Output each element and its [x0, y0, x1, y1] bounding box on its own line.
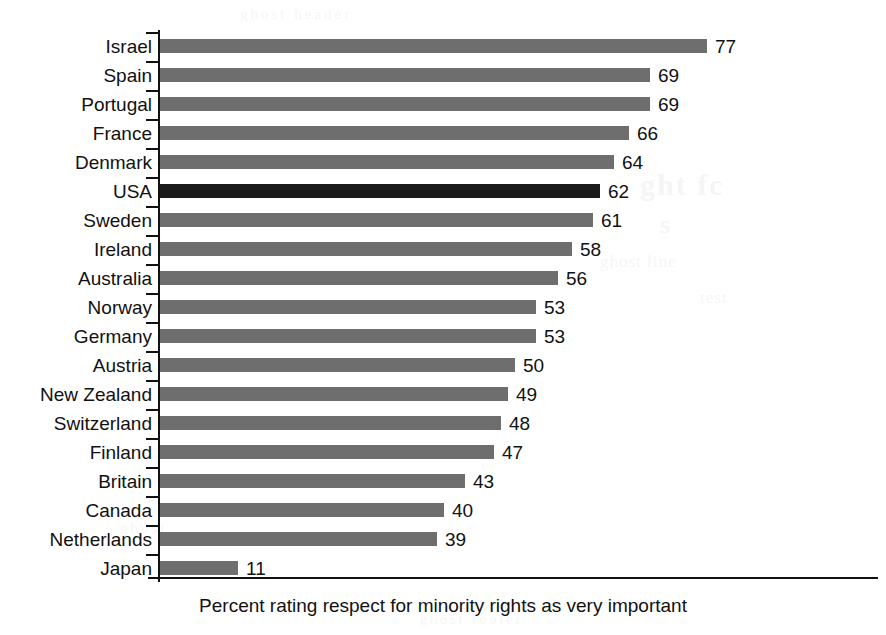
- bar: [160, 97, 650, 111]
- bar: [160, 68, 650, 82]
- bar: [160, 271, 558, 285]
- category-label: Canada: [0, 496, 152, 525]
- bar: [160, 416, 501, 430]
- category-label: Israel: [0, 32, 152, 61]
- category-label: USA: [0, 177, 152, 206]
- bar-row: New Zealand49: [0, 380, 886, 409]
- bar: [160, 561, 238, 575]
- bar-value-label: 49: [516, 380, 537, 409]
- bar-value-label: 56: [566, 264, 587, 293]
- bar-row: Portugal69: [0, 90, 886, 119]
- bar-row: Israel77: [0, 32, 886, 61]
- bar: [160, 358, 515, 372]
- bar-value-label: 50: [523, 351, 544, 380]
- bar: [160, 213, 593, 227]
- category-label: Spain: [0, 61, 152, 90]
- bar: [160, 387, 508, 401]
- bar: [160, 474, 465, 488]
- bar-value-label: 62: [608, 177, 629, 206]
- category-label: Australia: [0, 264, 152, 293]
- bar: [160, 445, 494, 459]
- bar-value-label: 66: [637, 119, 658, 148]
- bar-value-label: 53: [544, 322, 565, 351]
- bar-row: Netherlands39: [0, 525, 886, 554]
- bar: [160, 242, 572, 256]
- plot-area: Israel77Spain69Portugal69France66Denmark…: [0, 0, 886, 590]
- bar: [160, 126, 629, 140]
- bar-row: France66: [0, 119, 886, 148]
- bar-row: Norway53: [0, 293, 886, 322]
- bar-value-label: 77: [715, 32, 736, 61]
- category-label: Austria: [0, 351, 152, 380]
- bar-row: Switzerland48: [0, 409, 886, 438]
- bar-value-label: 69: [658, 61, 679, 90]
- category-label: Denmark: [0, 148, 152, 177]
- bar-row: Denmark64: [0, 148, 886, 177]
- bar-row: USA62: [0, 177, 886, 206]
- category-label: Ireland: [0, 235, 152, 264]
- bar-value-label: 58: [580, 235, 601, 264]
- x-axis-caption: Percent rating respect for minority righ…: [0, 595, 886, 617]
- category-label: Germany: [0, 322, 152, 351]
- bar-value-label: 69: [658, 90, 679, 119]
- category-label: New Zealand: [0, 380, 152, 409]
- category-label: Norway: [0, 293, 152, 322]
- bar-row: Australia56: [0, 264, 886, 293]
- bar: [160, 155, 614, 169]
- x-axis-line: [148, 577, 878, 579]
- bar-row: Finland47: [0, 438, 886, 467]
- bar-value-label: 61: [601, 206, 622, 235]
- y-axis-line: [158, 30, 160, 582]
- bar-value-label: 47: [502, 438, 523, 467]
- bar: [160, 300, 536, 314]
- bar-row: Spain69: [0, 61, 886, 90]
- category-label: Sweden: [0, 206, 152, 235]
- bar-row: Canada40: [0, 496, 886, 525]
- bar-highlighted: [160, 184, 600, 198]
- bar: [160, 532, 437, 546]
- bar: [160, 39, 707, 53]
- bar-row: Ireland58: [0, 235, 886, 264]
- bar-row: Sweden61: [0, 206, 886, 235]
- category-label: Britain: [0, 467, 152, 496]
- bar-row: Britain43: [0, 467, 886, 496]
- bar-value-label: 43: [473, 467, 494, 496]
- bar: [160, 329, 536, 343]
- category-label: France: [0, 119, 152, 148]
- category-label: Switzerland: [0, 409, 152, 438]
- category-label: Portugal: [0, 90, 152, 119]
- category-label: Japan: [0, 554, 152, 583]
- bar-value-label: 53: [544, 293, 565, 322]
- bar-value-label: 48: [509, 409, 530, 438]
- bar-row: Germany53: [0, 322, 886, 351]
- bar-row: Austria50: [0, 351, 886, 380]
- bar-value-label: 39: [445, 525, 466, 554]
- bar-value-label: 40: [452, 496, 473, 525]
- category-label: Finland: [0, 438, 152, 467]
- bar: [160, 503, 444, 517]
- category-label: Netherlands: [0, 525, 152, 554]
- bar-value-label: 64: [622, 148, 643, 177]
- bar-chart: ght fc s ghost line test ghost header gh…: [0, 0, 886, 635]
